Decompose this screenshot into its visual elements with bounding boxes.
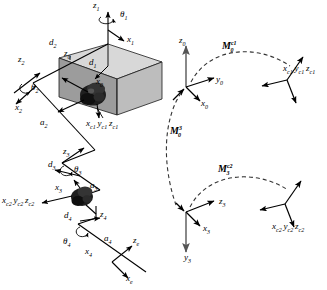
- label-transform-M03: M30: [170, 125, 181, 138]
- label-x3: x3: [55, 183, 62, 194]
- label-d1: d1: [89, 58, 97, 69]
- label-ze: ze: [133, 236, 139, 247]
- label-z0: z0: [64, 49, 71, 60]
- transform-arc-M03: [166, 93, 181, 205]
- label-x2: x2: [15, 103, 22, 114]
- label-theta4: θ4: [63, 237, 70, 248]
- label-z3: z3: [63, 147, 70, 158]
- transform-arc-M3c2: [190, 177, 288, 207]
- label-right-camera1-frame: xc1 yc1 zc1: [283, 64, 315, 75]
- label-z1: z1: [93, 1, 100, 12]
- label-a2: a2: [40, 118, 48, 129]
- label-d3: d3: [48, 160, 56, 171]
- label-right-x0: x0: [201, 99, 208, 110]
- label-transform-M0c1: Mc10: [222, 40, 234, 53]
- label-a4: a4: [104, 234, 112, 245]
- label-x0: x0: [96, 77, 103, 88]
- label-right-z3: z3: [219, 197, 226, 208]
- label-x1: x1: [127, 35, 134, 46]
- label-d2: d2: [49, 38, 57, 49]
- label-right-x3: x3: [203, 224, 210, 235]
- label-right-z0: z0: [179, 36, 186, 47]
- label-right-y3: y3: [184, 253, 191, 264]
- label-a3: a3: [90, 181, 98, 192]
- label-x4: x4: [85, 247, 92, 258]
- label-theta2: θ2: [31, 83, 38, 94]
- label-z2: z2: [18, 55, 25, 66]
- label-right-y0: y0: [216, 75, 223, 86]
- label-transform-M3c2: Mc23: [218, 163, 230, 176]
- label-xe: xe: [126, 274, 133, 285]
- label-theta1: θ1: [120, 10, 127, 21]
- label-theta3: θ3: [74, 165, 81, 176]
- label-d4: d4: [64, 211, 72, 222]
- right-frame0-axes: [173, 46, 214, 101]
- label-camera1-frame: xc1 yc1 zc1: [86, 119, 118, 130]
- transform-arc-M0c1: [191, 52, 290, 82]
- label-right-camera2-frame: xc2 yc2 zc2: [272, 222, 304, 233]
- figure-canvas: z1 θ1 x1 d2 z0 d1 z2 x0 θ2 x2 a2 xc1 yc1…: [0, 0, 327, 290]
- label-z4: z4: [100, 210, 107, 221]
- label-camera2-frame: xc2 yc2 zc2: [2, 196, 34, 207]
